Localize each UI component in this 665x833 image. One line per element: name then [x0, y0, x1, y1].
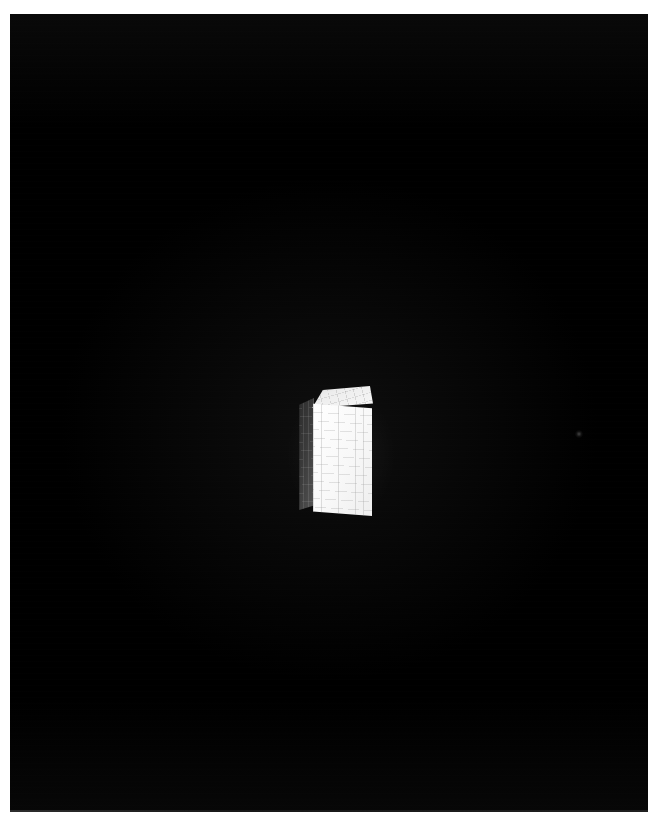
object-description: White gridded box rendered in three-quar…	[0, 0, 1, 1]
box-object[interactable]	[288, 382, 388, 527]
box-front-face-grid	[313, 402, 372, 516]
scene-title: 3D rendered rectangular box on black bac…	[0, 0, 1, 1]
faint-speck	[575, 430, 583, 438]
page-root: 3D rendered rectangular box on black bac…	[0, 0, 665, 833]
canvas-bottom-seam	[10, 810, 648, 812]
render-viewport	[10, 14, 648, 812]
box-left-face	[298, 398, 314, 510]
box-left-face-grid	[298, 398, 314, 510]
box-front-face	[313, 402, 372, 516]
